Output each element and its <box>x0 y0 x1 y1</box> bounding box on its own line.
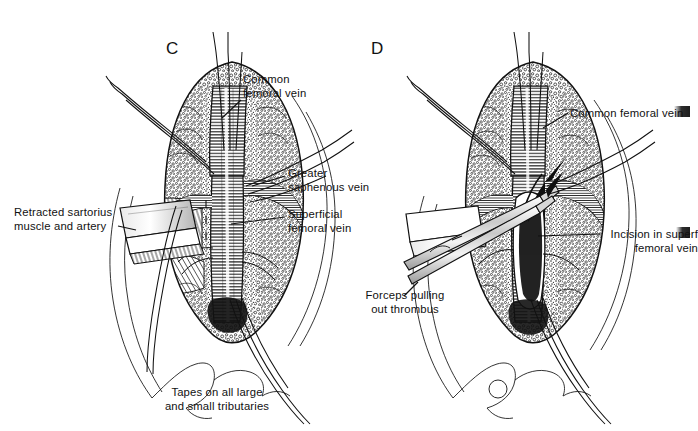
caption-panel-d: Forceps pulling out thrombus <box>344 289 466 316</box>
label-greater-saphenous-vein-c: Greater saphenous vein <box>288 167 369 194</box>
caption-panel-c: Tapes on all large and small tributaries <box>122 386 312 413</box>
label-common-femoral-vein-c: Common femoral vein <box>243 73 306 100</box>
scan-edge-artifact-bottom <box>676 227 690 238</box>
sartorius-retractor <box>120 200 204 264</box>
scan-edge-artifact-top <box>674 106 690 117</box>
label-superficial-femoral-vein-c: Superficial femoral vein <box>288 208 351 235</box>
label-retracted-sartorius-c: Retracted sartorius muscle and artery <box>14 206 112 233</box>
panel-letter-c: C <box>166 39 179 59</box>
label-common-femoral-vein-d: Common femoral vein <box>570 107 683 121</box>
panel-letter-d: D <box>371 39 384 59</box>
